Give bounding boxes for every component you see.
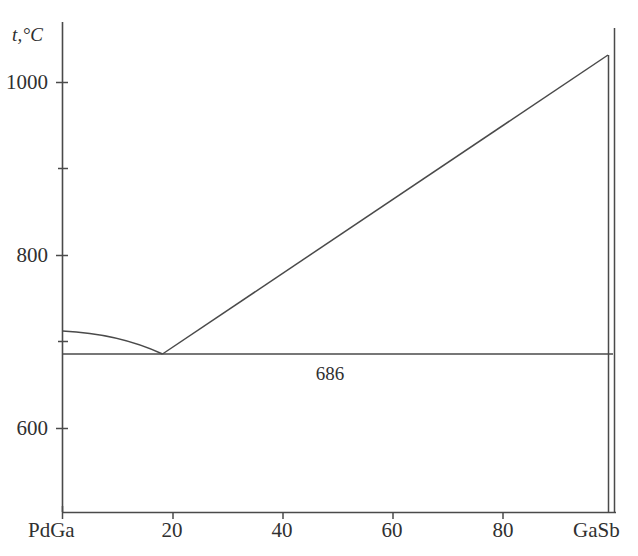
x-endpoint-label-pdga: PdGa — [28, 518, 75, 543]
y-tick-label-800: 800 — [0, 243, 48, 268]
right-liquidus-line — [163, 55, 609, 354]
y-axis-title: t,°C — [12, 24, 43, 46]
y-tick-label-1000: 1000 — [0, 70, 48, 95]
x-tick-label-40: 40 — [252, 518, 312, 543]
x-endpoint-label-gasb: GaSb — [573, 518, 620, 543]
left-liquidus-curve — [63, 331, 163, 354]
phase-diagram-figure: t,°C 1000 800 600 PdGa 20 40 60 80 GaSb … — [0, 0, 638, 556]
x-tick-label-20: 20 — [142, 518, 202, 543]
phase-diagram-plot — [0, 0, 638, 556]
x-tick-label-80: 80 — [473, 518, 533, 543]
eutectic-temperature-label: 686 — [290, 363, 370, 385]
y-tick-label-600: 600 — [0, 416, 48, 441]
x-tick-label-60: 60 — [362, 518, 422, 543]
